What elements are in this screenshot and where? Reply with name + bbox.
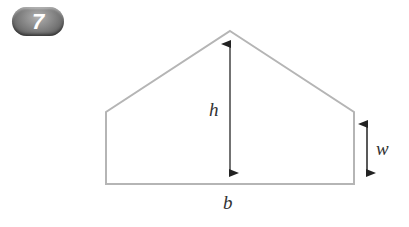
base-label: b xyxy=(223,192,233,213)
pentagon-diagram: h w b xyxy=(0,0,409,227)
height-label: h xyxy=(209,99,219,120)
width-side-label: w xyxy=(376,138,389,159)
figure: 7 h w b xyxy=(0,0,409,227)
